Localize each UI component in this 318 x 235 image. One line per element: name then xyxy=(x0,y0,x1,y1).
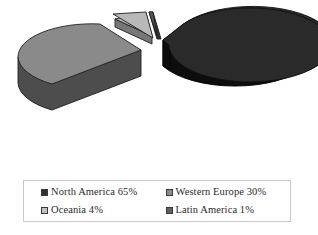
legend-swatch-north-america xyxy=(41,189,48,196)
legend-item-north-america[interactable]: North America 65% xyxy=(41,187,166,198)
legend-swatch-oceania xyxy=(41,207,48,214)
legend-label-oceania: Oceania 4% xyxy=(51,205,103,216)
pie-chart-area xyxy=(0,0,318,172)
legend-label-western-europe: Western Europe 30% xyxy=(176,187,267,198)
legend-label-north-america: North America 65% xyxy=(51,187,137,198)
pie-slice-western-europe xyxy=(18,24,141,110)
legend-swatch-latin-america xyxy=(166,207,173,214)
legend-grid: North America 65% Western Europe 30% Oce… xyxy=(24,181,290,221)
pie-chart-svg xyxy=(0,0,318,172)
legend-item-western-europe[interactable]: Western Europe 30% xyxy=(166,187,291,198)
legend-item-oceania[interactable]: Oceania 4% xyxy=(41,205,166,216)
legend-swatch-western-europe xyxy=(166,189,173,196)
legend-item-latin-america[interactable]: Latin America 1% xyxy=(166,205,291,216)
pie-slice-north-america xyxy=(163,6,318,86)
legend-label-latin-america: Latin America 1% xyxy=(176,205,255,216)
chart-legend: North America 65% Western Europe 30% Oce… xyxy=(23,180,291,222)
